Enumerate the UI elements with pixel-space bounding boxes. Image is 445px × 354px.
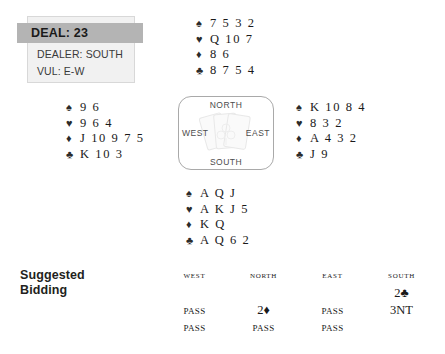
diamond-icon: ♦ [66, 132, 80, 144]
hand-north-diamonds-cards: 8 6 [210, 47, 230, 62]
hand-south-hearts-cards: A K J 5 [200, 202, 249, 217]
hand-north-diamonds: ♦ 8 6 [196, 47, 256, 63]
bidding-column-header-south: SOUTH [367, 270, 436, 285]
hand-north-clubs-cards: 8 7 5 4 [210, 63, 256, 78]
hand-south-diamonds: ♦ K Q [186, 217, 250, 233]
suggested-bidding-title: Suggested Bidding [20, 268, 85, 298]
bid-cell: Pass [160, 319, 229, 336]
compass-rose: NORTH WEST EAST SOUTH [178, 96, 274, 170]
heart-icon: ♥ [186, 203, 200, 215]
hand-west-clubs: ♣ K 10 3 [66, 147, 145, 163]
hand-west-hearts-cards: 9 6 4 [80, 116, 113, 131]
compass-label-north: NORTH [210, 100, 243, 110]
bid-cell: Pass [298, 319, 367, 336]
hand-west-spades-cards: 9 6 [80, 100, 100, 115]
hand-south-clubs-cards: A Q 6 2 [200, 233, 250, 248]
diamond-icon: ♦ [186, 218, 200, 230]
compass-label-east: EAST [246, 128, 270, 138]
hand-east-hearts: ♥ 8 3 2 [296, 116, 366, 132]
bidding-row: Pass 2♦ Pass 3NT [160, 302, 436, 319]
hand-west: ♠ 9 6 ♥ 9 6 4 ♦ J 10 9 7 5 ♣ K 10 3 [66, 100, 145, 162]
diamond-icon: ♦ [296, 132, 310, 144]
deal-number-label: DEAL: 23 [17, 26, 88, 40]
hand-west-diamonds: ♦ J 10 9 7 5 [66, 131, 145, 147]
hand-south-clubs: ♣ A Q 6 2 [186, 233, 250, 249]
bidding-column-header-west: WEST [160, 270, 229, 285]
heart-icon: ♥ [196, 33, 210, 45]
bid-cell: Pass [298, 302, 367, 319]
bid-cell [160, 285, 229, 302]
hand-east: ♠ K 10 8 4 ♥ 8 3 2 ♦ A 4 3 2 ♣ J 9 [296, 100, 366, 162]
hand-east-diamonds: ♦ A 4 3 2 [296, 131, 366, 147]
hand-west-clubs-cards: K 10 3 [80, 147, 124, 162]
bid-cell: 2♣ [367, 285, 436, 302]
suggested-bidding-title-line2: Bidding [20, 283, 85, 298]
bidding-column-header-north: NORTH [229, 270, 298, 285]
bid-cell: 2♦ [229, 302, 298, 319]
hand-west-diamonds-cards: J 10 9 7 5 [80, 131, 145, 146]
hand-east-spades-cards: K 10 8 4 [310, 100, 366, 115]
hand-east-diamonds-cards: A 4 3 2 [310, 131, 358, 146]
club-icon: ♣ [186, 234, 200, 246]
hand-south-diamonds-cards: K Q [200, 217, 226, 232]
bid-cell [229, 285, 298, 302]
hand-east-clubs-cards: J 9 [310, 147, 329, 162]
spade-icon: ♠ [186, 187, 200, 199]
club-icon: ♣ [296, 148, 310, 160]
hand-east-clubs: ♣ J 9 [296, 147, 366, 163]
bidding-header-row: WEST NORTH EAST SOUTH [160, 270, 436, 285]
compass-label-west: WEST [182, 128, 209, 138]
hand-south-hearts: ♥ A K J 5 [186, 202, 250, 218]
hand-south: ♠ A Q J ♥ A K J 5 ♦ K Q ♣ A Q 6 2 [186, 186, 250, 248]
bid-cell: Pass [229, 319, 298, 336]
diamond-icon: ♦ [196, 48, 210, 60]
hand-north-hearts: ♥ Q 10 7 [196, 32, 256, 48]
spade-icon: ♠ [196, 17, 210, 29]
compass-label-south: SOUTH [210, 157, 242, 167]
hand-west-spades: ♠ 9 6 [66, 100, 145, 116]
hand-north-spades-cards: 7 5 3 2 [210, 16, 256, 31]
bid-cell [367, 319, 436, 336]
spade-icon: ♠ [296, 101, 310, 113]
hand-north-hearts-cards: Q 10 7 [210, 32, 254, 47]
bid-cell [298, 285, 367, 302]
deal-info-panel: DEAL: 23 DEALER: SOUTH VUL: E-W [27, 16, 135, 83]
bidding-row: 2♣ [160, 285, 436, 302]
hand-east-hearts-cards: 8 3 2 [310, 116, 343, 131]
heart-icon: ♥ [296, 117, 310, 129]
spade-icon: ♠ [66, 101, 80, 113]
vulnerability-label: VUL: E-W [37, 65, 84, 77]
bidding-row: Pass Pass Pass [160, 319, 436, 336]
hand-south-spades: ♠ A Q J [186, 186, 250, 202]
suggested-bidding-title-line1: Suggested [20, 268, 85, 283]
deal-number-bar: DEAL: 23 [17, 23, 143, 43]
hand-north: ♠ 7 5 3 2 ♥ Q 10 7 ♦ 8 6 ♣ 8 7 5 4 [196, 16, 256, 78]
bid-cell: Pass [160, 302, 229, 319]
bid-cell: 3NT [367, 302, 436, 319]
hand-east-spades: ♠ K 10 8 4 [296, 100, 366, 116]
hand-west-hearts: ♥ 9 6 4 [66, 116, 145, 132]
hand-south-spades-cards: A Q J [200, 186, 236, 201]
heart-icon: ♥ [66, 117, 80, 129]
club-icon: ♣ [196, 64, 210, 76]
bidding-column-header-east: EAST [298, 270, 367, 285]
hand-north-clubs: ♣ 8 7 5 4 [196, 63, 256, 79]
club-icon: ♣ [66, 148, 80, 160]
bidding-table: WEST NORTH EAST SOUTH 2♣ Pass 2♦ Pass 3N… [160, 270, 436, 336]
dealer-label: DEALER: SOUTH [37, 48, 123, 60]
hand-north-spades: ♠ 7 5 3 2 [196, 16, 256, 32]
